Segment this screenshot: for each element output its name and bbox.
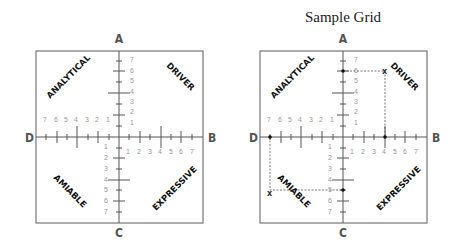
svg-text:4: 4 — [130, 88, 134, 95]
svg-text:1: 1 — [104, 143, 108, 150]
svg-text:7: 7 — [190, 148, 194, 155]
point-c-6 — [341, 188, 345, 192]
svg-text:2: 2 — [328, 154, 332, 161]
svg-text:4: 4 — [354, 88, 358, 95]
svg-text:4: 4 — [382, 148, 386, 155]
svg-text:4: 4 — [298, 116, 302, 123]
svg-text:5: 5 — [130, 77, 134, 84]
svg-text:3: 3 — [354, 98, 358, 105]
scale-d: 1 2 3 4 5 6 7 — [267, 116, 334, 123]
svg-text:1: 1 — [130, 119, 134, 126]
svg-text:2: 2 — [130, 108, 134, 115]
svg-text:5: 5 — [64, 116, 68, 123]
svg-text:1: 1 — [106, 116, 110, 123]
svg-text:4: 4 — [104, 176, 108, 183]
svg-text:6: 6 — [403, 148, 407, 155]
svg-text:7: 7 — [104, 208, 108, 215]
driver-x-mark: x — [382, 67, 388, 76]
svg-text:2: 2 — [104, 154, 108, 161]
svg-text:6: 6 — [179, 148, 183, 155]
scale-d: 1 2 3 4 5 6 7 — [43, 116, 110, 123]
svg-text:7: 7 — [354, 56, 358, 63]
quadrant-amiable: AMIABLE — [52, 172, 89, 209]
scale-c: 1 2 3 4 5 6 7 — [104, 143, 108, 215]
svg-text:2: 2 — [95, 116, 99, 123]
point-a-6 — [341, 69, 345, 73]
svg-text:5: 5 — [393, 148, 397, 155]
svg-text:2: 2 — [354, 108, 358, 115]
svg-text:4: 4 — [74, 116, 78, 123]
axis-label-d: D — [249, 131, 258, 145]
quadrant-analytical: ANALYTICAL — [44, 52, 92, 100]
social-style-grids: Sample Grid A B C D 1 2 3 4 5 6 7 — [0, 0, 457, 247]
svg-text:5: 5 — [328, 186, 332, 193]
svg-text:3: 3 — [309, 116, 313, 123]
sample-grid: A B C D 1 2 3 4 5 6 7 — [249, 32, 440, 240]
svg-text:1: 1 — [350, 148, 354, 155]
svg-text:1: 1 — [354, 119, 358, 126]
svg-text:6: 6 — [54, 116, 58, 123]
scale-b: 1 2 3 4 5 6 7 — [126, 148, 194, 155]
svg-text:5: 5 — [354, 77, 358, 84]
svg-text:3: 3 — [372, 148, 376, 155]
axis-label-a: A — [115, 32, 124, 46]
svg-text:2: 2 — [319, 116, 323, 123]
svg-text:1: 1 — [330, 116, 334, 123]
quadrant-driver: DRIVER — [389, 60, 422, 93]
svg-text:7: 7 — [267, 116, 271, 123]
axis-label-b: B — [432, 131, 440, 145]
svg-text:7: 7 — [130, 56, 134, 63]
svg-text:7: 7 — [328, 208, 332, 215]
svg-text:4: 4 — [328, 176, 332, 183]
svg-text:3: 3 — [85, 116, 89, 123]
blank-grid: A B C D 1 2 3 4 5 6 7 — [25, 32, 216, 240]
svg-text:5: 5 — [169, 148, 173, 155]
svg-text:3: 3 — [130, 98, 134, 105]
point-d-7 — [268, 135, 272, 139]
quadrant-expressive: EXPRESSIVE — [150, 164, 198, 212]
quadrant-driver: DRIVER — [165, 60, 198, 93]
quadrant-amiable: AMIABLE — [276, 172, 313, 209]
driver-guide — [343, 71, 385, 137]
svg-text:1: 1 — [328, 143, 332, 150]
svg-text:6: 6 — [130, 67, 134, 74]
svg-text:7: 7 — [414, 148, 418, 155]
amiable-x-mark: x — [267, 189, 273, 198]
quadrant-analytical: ANALYTICAL — [268, 52, 316, 100]
scale-c: 1 2 3 4 5 6 7 — [328, 143, 332, 215]
svg-text:3: 3 — [104, 165, 108, 172]
svg-text:5: 5 — [288, 116, 292, 123]
plot-guides — [270, 71, 385, 190]
axis-label-b: B — [208, 131, 216, 145]
scale-a: 1 2 3 4 5 6 7 — [354, 56, 358, 126]
axis-label-c: C — [115, 226, 123, 240]
axis-label-d: D — [25, 131, 34, 145]
svg-text:3: 3 — [328, 165, 332, 172]
svg-text:7: 7 — [43, 116, 47, 123]
svg-text:2: 2 — [137, 148, 141, 155]
scale-b: 1 2 3 4 5 6 7 — [350, 148, 418, 155]
svg-text:4: 4 — [158, 148, 162, 155]
svg-text:6: 6 — [328, 197, 332, 204]
svg-text:2: 2 — [361, 148, 365, 155]
svg-text:6: 6 — [354, 67, 358, 74]
sample-grid-title: Sample Grid — [305, 9, 382, 25]
svg-text:3: 3 — [148, 148, 152, 155]
svg-text:6: 6 — [278, 116, 282, 123]
quadrant-expressive: EXPRESSIVE — [374, 164, 422, 212]
svg-text:5: 5 — [104, 186, 108, 193]
axis-label-a: A — [339, 32, 348, 46]
point-b-4 — [383, 135, 387, 139]
svg-text:1: 1 — [126, 148, 130, 155]
scale-a: 1 2 3 4 5 6 7 — [130, 56, 134, 126]
axis-label-c: C — [339, 226, 347, 240]
svg-text:6: 6 — [104, 197, 108, 204]
